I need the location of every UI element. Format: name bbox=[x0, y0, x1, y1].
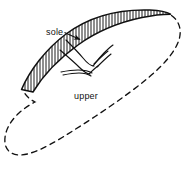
upper-label: upper bbox=[74, 91, 98, 101]
figure-container: sole upper bbox=[0, 0, 192, 174]
figure-background bbox=[0, 0, 192, 174]
sole-label: sole bbox=[46, 27, 63, 37]
shoe-construction-diagram: sole upper bbox=[0, 0, 192, 174]
